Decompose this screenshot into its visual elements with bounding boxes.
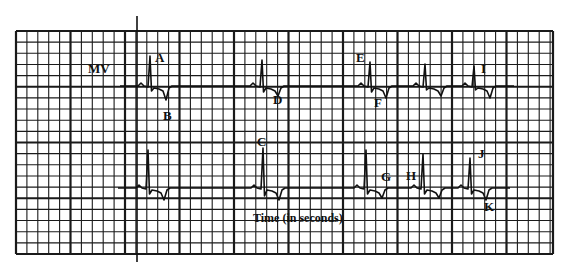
point-label: I [481,61,486,76]
point-label: F [374,95,382,110]
point-label: B [163,108,172,123]
point-label: A [155,50,165,65]
point-label: C [257,134,266,149]
point-label: H [406,168,416,183]
point-label: K [484,199,495,214]
point-label: MV [88,61,110,76]
ecg-traces [118,56,514,200]
ecg-chart: MVABCDEFGHIJKTime (in seconds) [0,0,569,274]
axis-label: Time (in seconds) [253,211,343,225]
point-label: J [478,146,485,161]
point-label: D [273,92,282,107]
point-label: E [356,50,365,65]
point-label: G [381,169,391,184]
